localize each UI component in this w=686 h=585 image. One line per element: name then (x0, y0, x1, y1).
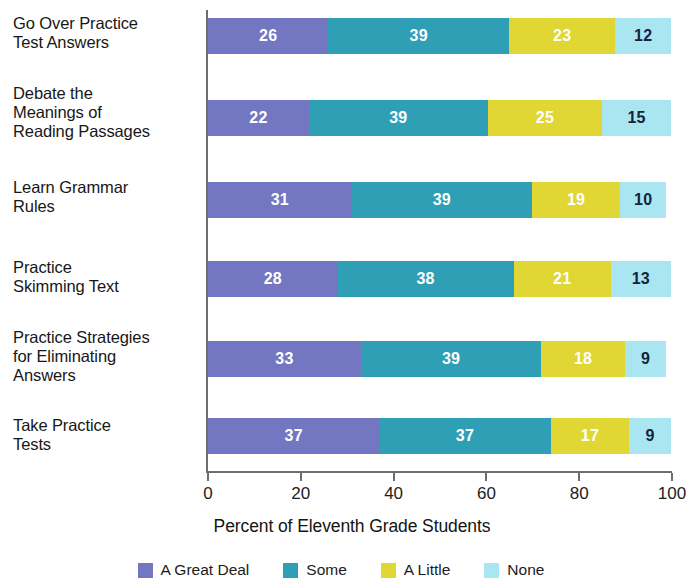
bar-segment-value: 33 (275, 351, 293, 367)
bar-segment-some: 39 (361, 341, 542, 377)
bar-row: 28382113 (208, 261, 671, 297)
legend-label: Some (306, 561, 347, 579)
x-axis-tick (485, 473, 487, 481)
bar-segment-value: 39 (433, 192, 451, 208)
bar-row: 26392312 (208, 18, 671, 54)
bar-segment-value: 19 (567, 192, 585, 208)
bar-segment-value: 21 (553, 271, 571, 287)
bar-segment-value: 39 (389, 110, 407, 126)
bar-segment-a-little: 25 (488, 100, 603, 136)
bar-segment-value: 15 (628, 110, 646, 126)
bar-segment-a-little: 19 (532, 182, 620, 218)
x-axis-tick (578, 473, 580, 481)
x-axis-tick-label: 0 (203, 484, 212, 504)
category-label-0: Go Over Practice Test Answers (13, 14, 203, 52)
bar-segment-none: 12 (615, 18, 671, 54)
legend-swatch-icon (138, 563, 153, 578)
bar-segment-a-great-deal: 33 (208, 341, 361, 377)
bar-segment-value: 10 (634, 192, 652, 208)
bar-segment-a-great-deal: 37 (208, 418, 379, 454)
bar-segment-value: 38 (416, 271, 434, 287)
category-label-1: Debate the Meanings of Reading Passages (13, 84, 203, 141)
legend-item[interactable]: Some (283, 561, 347, 579)
category-label-5: Take Practice Tests (13, 416, 203, 454)
bar-segment-value: 23 (553, 28, 571, 44)
bar-segment-value: 26 (259, 28, 277, 44)
bar-segment-value: 39 (442, 351, 460, 367)
x-axis-tick-label: 20 (291, 484, 310, 504)
bar-segment-none: 15 (602, 100, 671, 136)
y-axis-line (206, 10, 208, 473)
bar-segment-none: 10 (620, 182, 666, 218)
bar-segment-value: 28 (264, 271, 282, 287)
bar-row: 3737179 (208, 418, 671, 454)
bar-segment-a-great-deal: 31 (208, 182, 352, 218)
bar-segment-value: 25 (536, 110, 554, 126)
legend-item[interactable]: A Great Deal (138, 561, 250, 579)
legend-label: A Great Deal (161, 561, 250, 579)
bar-segment-some: 39 (309, 100, 488, 136)
x-axis-title-text: Percent of Eleventh Grade Students (192, 516, 491, 537)
bar-segment-a-little: 17 (551, 418, 630, 454)
bar-segment-none: 9 (629, 418, 671, 454)
category-label-2: Learn Grammar Rules (13, 178, 203, 216)
legend-item[interactable]: None (484, 561, 544, 579)
bar-segment-a-little: 23 (509, 18, 615, 54)
plot-area: 2639231222392515313919102838211333391893… (208, 0, 671, 470)
x-axis-tick-label: 40 (384, 484, 403, 504)
bar-row: 22392515 (208, 100, 671, 136)
x-axis-tick (207, 473, 209, 481)
bar-segment-a-great-deal: 22 (208, 100, 309, 136)
legend-swatch-icon (283, 563, 298, 578)
bar-segment-value: 17 (581, 428, 599, 444)
bar-row: 31391910 (208, 182, 671, 218)
legend-item[interactable]: A Little (381, 561, 451, 579)
category-label-3: Practice Skimming Text (13, 258, 203, 296)
bar-segment-value: 39 (410, 28, 428, 44)
x-axis-title: Percent of Eleventh Grade Students (0, 516, 682, 537)
x-axis-tick (671, 473, 673, 481)
bar-segment-value: 9 (646, 428, 655, 444)
bar-segment-some: 38 (338, 261, 514, 297)
bar-segment-some: 37 (379, 418, 550, 454)
bar-row: 3339189 (208, 341, 671, 377)
x-axis-line (207, 471, 672, 473)
legend: A Great DealSomeA LittleNone (0, 561, 682, 579)
bar-segment-value: 18 (574, 351, 592, 367)
x-axis-tick (393, 473, 395, 481)
bar-segment-value: 37 (456, 428, 474, 444)
x-axis-tick-label: 60 (477, 484, 496, 504)
bar-segment-value: 12 (634, 28, 652, 44)
bar-segment-value: 9 (641, 351, 650, 367)
legend-label: A Little (404, 561, 451, 579)
legend-swatch-icon (381, 563, 396, 578)
bar-segment-value: 31 (271, 192, 289, 208)
bar-segment-a-great-deal: 26 (208, 18, 328, 54)
bar-segment-value: 22 (249, 110, 267, 126)
bar-segment-none: 9 (625, 341, 667, 377)
legend-swatch-icon (484, 563, 499, 578)
bar-segment-some: 39 (328, 18, 509, 54)
bar-segment-a-little: 18 (541, 341, 624, 377)
category-label-4: Practice Strategies for Eliminating Answ… (13, 328, 203, 385)
bar-segment-none: 13 (611, 261, 671, 297)
legend-label: None (507, 561, 544, 579)
bar-segment-value: 13 (632, 271, 650, 287)
bar-segment-a-great-deal: 28 (208, 261, 338, 297)
x-axis-tick-label: 80 (570, 484, 589, 504)
x-axis-tick (300, 473, 302, 481)
bar-segment-some: 39 (352, 182, 533, 218)
bar-segment-a-little: 21 (514, 261, 611, 297)
bar-segment-value: 37 (285, 428, 303, 444)
x-axis-tick-label: 100 (658, 484, 686, 504)
